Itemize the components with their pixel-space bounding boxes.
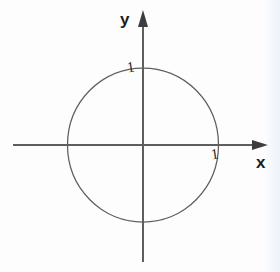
figure-canvas: y x 1 1	[0, 0, 280, 272]
y-axis-label: y	[120, 11, 129, 28]
x-axis-label: x	[256, 154, 265, 171]
y-axis-arrowhead	[138, 10, 148, 27]
x-axis-arrowhead	[252, 140, 268, 150]
unit-circle-figure	[0, 0, 280, 272]
